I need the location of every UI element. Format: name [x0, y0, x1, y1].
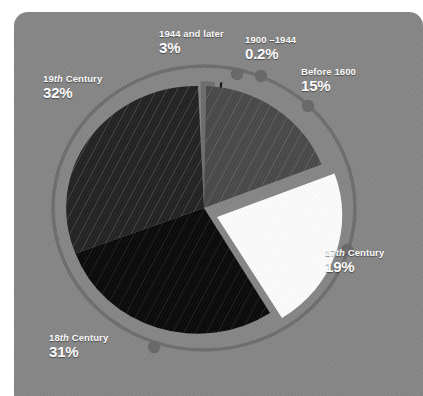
slice-category-18th-century-suffix: Century	[69, 332, 108, 343]
slice-category-19th-century-prefix: 19	[43, 73, 54, 84]
slice-category-19th-century-ordinal: th	[54, 73, 63, 84]
slice-category-before-1600: Before 1600	[301, 67, 356, 77]
slice-value-1900-1944: 0.2%	[245, 46, 296, 62]
slice-category-18th-century-prefix: 18	[49, 332, 60, 343]
slice-category-18th-century: 18th Century	[49, 333, 108, 343]
slice-category-19th-century: 19th Century	[43, 74, 102, 84]
figure-card: Before 1600 15% 17th Century 19% 18th Ce…	[14, 12, 423, 396]
slice-label-19th-century: 19th Century 32%	[43, 74, 102, 101]
slice-value-17th-century: 19%	[325, 259, 384, 275]
slice-category-19th-century-suffix: Century	[63, 73, 102, 84]
slice-category-18th-century-ordinal: th	[60, 332, 69, 343]
slice-value-18th-century: 31%	[49, 344, 108, 360]
ring-marker-18th-century	[148, 341, 160, 353]
slice-category-17th-century-prefix: 17	[325, 247, 336, 258]
slice-label-1944-and-later: 1944 and later 3%	[159, 29, 224, 56]
slice-category-17th-century-ordinal: th	[336, 247, 345, 258]
slice-label-1900-1944: 1900 –1944 0.2%	[245, 35, 296, 62]
ring-marker-before-1600	[302, 100, 314, 112]
slice-label-18th-century: 18th Century 31%	[49, 333, 108, 360]
slice-value-1944-and-later: 3%	[159, 40, 224, 56]
slice-value-before-1600: 15%	[301, 78, 356, 94]
slice-category-17th-century: 17th Century	[325, 248, 384, 258]
slice-value-19th-century: 32%	[43, 85, 102, 101]
slice-label-17th-century: 17th Century 19%	[325, 248, 384, 275]
ring-marker-1900-1944	[255, 70, 267, 82]
slice-label-before-1600: Before 1600 15%	[301, 67, 356, 94]
slice-category-17th-century-suffix: Century	[345, 247, 384, 258]
pie-chart: Before 1600 15% 17th Century 19% 18th Ce…	[14, 12, 423, 396]
ring-marker-1944-and-later	[231, 68, 243, 80]
slice-category-1944-and-later: 1944 and later	[159, 29, 224, 39]
slice-category-1900-1944: 1900 –1944	[245, 35, 296, 45]
